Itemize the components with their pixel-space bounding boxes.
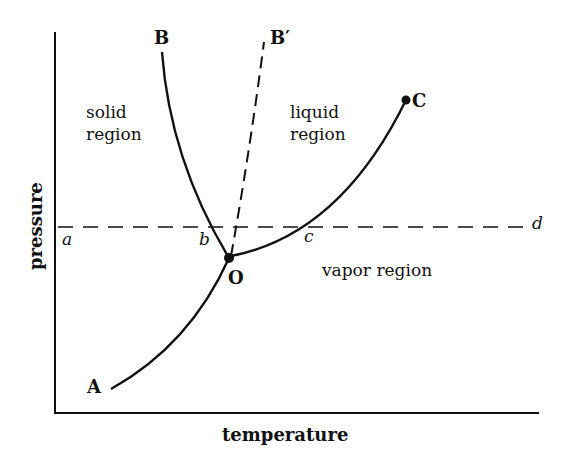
isobar-d-label: d <box>532 213 543 233</box>
isobar-a-label: a <box>62 229 72 249</box>
isobar-c-label: c <box>304 226 314 246</box>
liquid-region-label-2: region <box>290 124 346 144</box>
point-B-prime-label: B′ <box>270 27 290 48</box>
liquid-region-label-1: liquid <box>290 102 339 122</box>
point-B-label: B <box>154 27 169 48</box>
solid-region-label-2: region <box>86 124 142 144</box>
point-A-label: A <box>86 376 102 397</box>
triple-point-dot <box>224 253 234 263</box>
fusion-curve-dashed <box>231 42 264 256</box>
solid-region-label-1: solid <box>86 102 127 122</box>
isobar-b-label: b <box>199 229 210 249</box>
sublimation-curve <box>111 258 229 389</box>
phase-diagram: solid region liquid region vapor region … <box>0 0 572 463</box>
y-axis-title: pressure <box>25 182 46 270</box>
vapor-region-label: vapor region <box>321 260 432 280</box>
point-O-label: O <box>228 267 244 288</box>
x-axis-title: temperature <box>222 424 348 445</box>
point-C-label: C <box>412 90 426 111</box>
critical-point-dot <box>402 96 411 105</box>
